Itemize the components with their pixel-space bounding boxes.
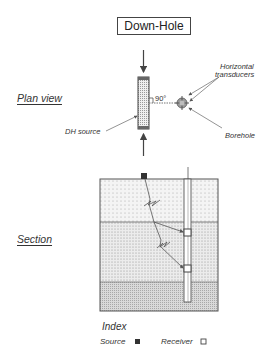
source-marker — [141, 173, 147, 179]
section-graphic — [100, 167, 218, 311]
lower-layer — [100, 282, 218, 311]
angle-label: 90° — [155, 94, 166, 103]
plan-view-graphic — [106, 50, 222, 156]
transducers-label-line2: transducers — [215, 71, 254, 79]
plan-view-label: Plan view — [17, 92, 62, 104]
legend-receiver-symbol — [201, 339, 206, 344]
legend-source-label: Source — [100, 337, 125, 346]
diagram-graphics — [0, 0, 279, 347]
receiver-upper — [184, 229, 191, 236]
middle-layer — [100, 222, 218, 282]
legend-source-symbol — [135, 339, 140, 344]
borehole-label: Borehole — [225, 132, 255, 140]
receiver-lower — [184, 265, 191, 272]
dh-source-label: DH source — [65, 128, 100, 136]
borehole-pipe — [184, 179, 191, 302]
dh-source-plank — [138, 77, 149, 129]
legend-receiver-label: Receiver — [161, 337, 193, 346]
borehole-plan-icon — [175, 96, 189, 110]
legend-title: Index — [102, 321, 126, 332]
section-label: Section — [17, 233, 52, 245]
